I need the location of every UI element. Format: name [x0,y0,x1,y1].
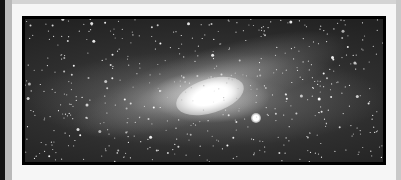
galaxy-photo [25,19,383,162]
photo-frame [22,16,386,165]
left-gray-stripe [5,0,12,180]
right-edge [396,0,401,180]
star-field [25,19,383,162]
